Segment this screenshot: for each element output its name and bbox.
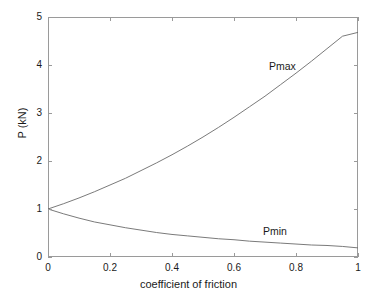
y-tick-mark-right: [354, 209, 358, 210]
x-tick-label: 0.8: [276, 262, 316, 273]
y-tick-mark-right: [354, 257, 358, 258]
y-tick-mark-right: [354, 65, 358, 66]
y-tick-mark-right: [354, 113, 358, 114]
series-label-pmin: Pmin: [263, 225, 287, 237]
x-tick-label: 0: [28, 262, 68, 273]
x-tick-label: 0.6: [214, 262, 254, 273]
x-tick-label: 0.4: [152, 262, 192, 273]
y-tick-mark: [48, 113, 52, 114]
x-tick-mark: [296, 253, 297, 257]
x-tick-mark: [358, 253, 359, 257]
y-axis-label: P (kN): [16, 63, 28, 183]
x-tick-mark: [48, 253, 49, 257]
series-line-pmax: [48, 32, 358, 209]
x-tick-mark-top: [48, 17, 49, 21]
x-tick-mark-top: [172, 17, 173, 21]
x-tick-mark: [172, 253, 173, 257]
y-tick-mark: [48, 257, 52, 258]
y-tick-label: 1: [16, 203, 42, 214]
x-tick-mark-top: [296, 17, 297, 21]
series-line-pmin: [48, 209, 358, 248]
y-tick-label: 0: [16, 251, 42, 262]
x-tick-mark: [234, 253, 235, 257]
y-tick-label: 5: [16, 11, 42, 22]
y-tick-mark: [48, 65, 52, 66]
x-axis-label: coefficient of friction: [0, 278, 377, 290]
chart-figure: 01234500.20.40.60.81 Pmax Pmin coefficie…: [0, 0, 377, 298]
x-tick-mark-top: [358, 17, 359, 21]
series-label-pmax: Pmax: [269, 60, 296, 72]
y-tick-mark: [48, 161, 52, 162]
x-tick-label: 0.2: [90, 262, 130, 273]
y-tick-mark: [48, 209, 52, 210]
y-tick-mark-right: [354, 161, 358, 162]
x-tick-mark: [110, 253, 111, 257]
x-tick-mark-top: [234, 17, 235, 21]
x-tick-label: 1: [338, 262, 377, 273]
plot-canvas: [48, 17, 358, 257]
x-tick-mark-top: [110, 17, 111, 21]
